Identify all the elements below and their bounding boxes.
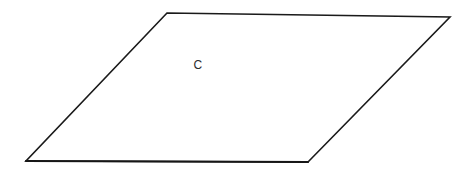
figure-canvas: C xyxy=(0,0,467,180)
parallelogram-figure xyxy=(0,0,467,180)
parallelogram-shape xyxy=(26,13,450,162)
region-label-c: C xyxy=(194,59,203,71)
parallelogram-bottom-edge xyxy=(26,161,308,162)
